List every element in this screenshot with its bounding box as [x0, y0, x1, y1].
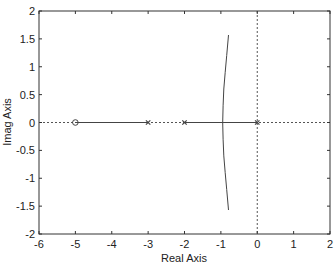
- x-tick-label: -5: [70, 238, 80, 250]
- y-tick-label: -1: [25, 172, 35, 184]
- y-tick-label: 0: [29, 117, 35, 129]
- x-tick-label: 2: [327, 238, 333, 250]
- x-tick-label: -6: [34, 238, 44, 250]
- x-tick-label: -1: [216, 238, 226, 250]
- y-tick-label: -1.5: [16, 200, 35, 212]
- root-locus-plot: -6-5-4-3-2-1012-2-1.5-1-0.500.511.52 Rea…: [0, 0, 336, 270]
- y-tick-label: 1.5: [20, 33, 35, 45]
- y-tick-label: -2: [25, 228, 35, 240]
- y-tick-label: 1: [29, 61, 35, 73]
- x-tick-label: -3: [143, 238, 153, 250]
- x-tick-label: 0: [254, 238, 260, 250]
- x-tick-label: 1: [291, 238, 297, 250]
- x-axis-label: Real Axis: [161, 252, 207, 264]
- y-axis-label: Imag Axis: [1, 98, 13, 146]
- x-tick-label: -2: [180, 238, 190, 250]
- y-tick-label: -0.5: [16, 144, 35, 156]
- x-tick-label: -4: [107, 238, 117, 250]
- y-tick-label: 2: [29, 5, 35, 17]
- y-tick-label: 0.5: [20, 89, 35, 101]
